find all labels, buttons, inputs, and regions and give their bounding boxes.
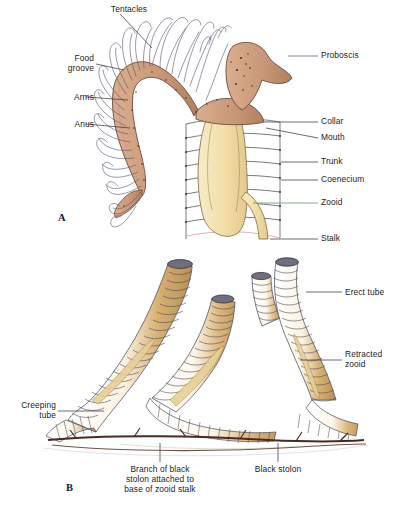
label-anus: Anus <box>44 119 94 129</box>
label-black-stolon: Black stolon <box>240 464 316 474</box>
panel-letter-a: A <box>58 212 66 223</box>
tube-opening-middle <box>212 295 234 303</box>
proboscis <box>226 42 292 110</box>
figure-canvas <box>0 0 400 506</box>
zooid-trunk-body <box>198 118 247 236</box>
label-coenecium: Coenecium <box>321 174 364 184</box>
arms-band <box>112 62 198 196</box>
label-food-groove: Food groove <box>34 53 94 73</box>
label-stalk: Stalk <box>321 233 340 243</box>
label-proboscis: Proboscis <box>321 50 359 60</box>
label-arms: Arms <box>44 92 94 102</box>
label-branch-of-black-stolon: Branch of black stolon attached to base … <box>110 464 210 495</box>
creeping-tube-right <box>306 400 358 436</box>
tube-opening-left <box>168 260 193 269</box>
label-creeping-tube: Creeping tube <box>2 400 56 420</box>
tube-opening-right <box>276 258 299 266</box>
label-tentacles: Tentacles <box>96 4 162 14</box>
tube-opening-right-small <box>252 272 271 279</box>
panel-letter-b: B <box>66 482 73 493</box>
panel-b-illustration <box>44 258 368 462</box>
panel-a-illustration <box>86 14 318 239</box>
label-trunk: Trunk <box>321 156 343 166</box>
erect-tube-right <box>275 262 337 400</box>
black-stolon-lower <box>52 444 366 451</box>
collar <box>196 99 264 125</box>
label-zooid: Zooid <box>321 197 342 207</box>
label-collar: Collar <box>321 116 343 126</box>
black-stolon <box>48 436 364 441</box>
label-retracted-zooid: Retracted zooid <box>345 349 382 369</box>
label-mouth: Mouth <box>321 132 345 142</box>
label-erect-tube: Erect tube <box>345 287 384 297</box>
